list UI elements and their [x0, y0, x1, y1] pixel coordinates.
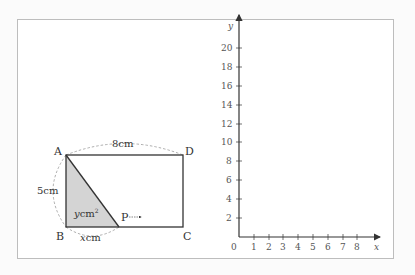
vertex-d-label: D — [185, 145, 194, 158]
height-label: 5cm — [37, 185, 59, 196]
svg-text:6: 6 — [226, 175, 232, 185]
origin-label: 0 — [231, 242, 237, 252]
svg-text:12: 12 — [221, 119, 232, 129]
svg-text:10: 10 — [221, 137, 233, 147]
svg-text:18: 18 — [221, 62, 233, 72]
svg-text:14: 14 — [221, 100, 233, 110]
svg-text:16: 16 — [221, 81, 233, 91]
x-axis-label: x — [374, 242, 379, 252]
rectangle-figure: A D B C P 8cm 5cm ycm2 xcm — [37, 138, 194, 243]
svg-text:8: 8 — [354, 242, 360, 252]
figure-svg: A D B C P 8cm 5cm ycm2 xcm y x 0 2 4 6 8… — [0, 0, 415, 275]
svg-text:5: 5 — [310, 242, 316, 252]
svg-text:6: 6 — [325, 242, 331, 252]
y-axis-label: y — [227, 21, 234, 31]
svg-text:4: 4 — [295, 242, 301, 252]
vertex-a-label: A — [53, 145, 63, 158]
width-label: 8cm — [112, 138, 134, 149]
segment-label: xcm — [80, 232, 101, 243]
vertex-b-label: B — [56, 230, 64, 243]
svg-text:7: 7 — [340, 242, 346, 252]
svg-text:8: 8 — [226, 156, 232, 166]
svg-text:1: 1 — [251, 242, 257, 252]
svg-text:20: 20 — [221, 43, 233, 53]
coordinate-graph: y x 0 2 4 6 8 10 12 14 16 18 20 — [221, 15, 380, 252]
vertex-c-label: C — [183, 230, 191, 243]
svg-text:4: 4 — [226, 194, 232, 204]
svg-text:3: 3 — [280, 242, 286, 252]
point-p-label: P — [121, 211, 129, 224]
svg-text:2: 2 — [266, 242, 272, 252]
svg-text:2: 2 — [226, 213, 232, 223]
